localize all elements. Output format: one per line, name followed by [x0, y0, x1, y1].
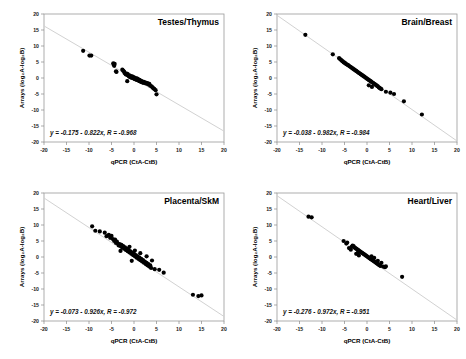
panel-title: Heart/Liver [408, 196, 453, 206]
x-tick-label: 5 [388, 326, 391, 332]
x-tick-label: 10 [409, 326, 415, 332]
y-tick-label: 15 [33, 206, 39, 212]
data-point [113, 62, 117, 66]
x-tick-label: -20 [40, 147, 48, 153]
x-tick-label: -5 [109, 326, 114, 332]
regression-equation: y = -0.073 - 0.926x, R = -0.972 [49, 308, 137, 316]
scatter-panel: -20-15-10-50510152020151050-5-10-15-20Pl… [0, 179, 233, 358]
data-point [157, 268, 161, 272]
data-point [149, 266, 153, 270]
figure-panel-grid: -20-15-10-50510152020151050-5-10-15-20Te… [0, 0, 466, 359]
data-point [331, 52, 335, 56]
x-axis-title: qPCR (CtA-CtB) [344, 337, 391, 344]
data-point [376, 259, 380, 263]
data-point [303, 33, 307, 37]
y-tick-label: -15 [32, 123, 40, 129]
x-tick-label: -10 [318, 326, 326, 332]
x-tick-label: 10 [176, 326, 182, 332]
x-tick-label: 20 [221, 326, 227, 332]
panel-plot: -20-15-10-50510152020151050-5-10-15-20Te… [0, 0, 233, 179]
x-tick-label: 20 [221, 147, 227, 153]
y-tick-label: -10 [265, 286, 273, 292]
regression-equation: y = -0.038 - 0.982x, R = -0.984 [282, 129, 370, 137]
y-tick-label: -15 [265, 123, 273, 129]
y-tick-label: 20 [266, 11, 272, 17]
data-point [154, 92, 158, 96]
x-tick-label: -15 [63, 326, 71, 332]
y-tick-label: 15 [266, 27, 272, 33]
y-axis-title: Arrays (log₂A-log₂B) [251, 227, 258, 288]
x-tick-label: 5 [155, 326, 158, 332]
data-point [118, 249, 122, 253]
data-point [310, 215, 314, 219]
y-tick-label: -15 [32, 302, 40, 308]
data-point [384, 264, 388, 268]
scatter-panel: -20-15-10-50510152020151050-5-10-15-20He… [233, 179, 466, 358]
x-tick-label: -20 [273, 147, 281, 153]
x-tick-label: 0 [133, 326, 136, 332]
y-tick-label: -20 [32, 318, 40, 324]
y-tick-label: 10 [266, 43, 272, 49]
data-point [133, 249, 137, 253]
y-tick-label: 10 [33, 222, 39, 228]
data-point [98, 229, 102, 233]
data-point [93, 229, 97, 233]
x-tick-label: 15 [199, 326, 205, 332]
y-tick-label: 20 [33, 11, 39, 17]
y-tick-label: 15 [266, 206, 272, 212]
y-tick-label: -20 [265, 139, 273, 145]
panel-title: Brain/Breast [401, 17, 452, 27]
x-axis-title: qPCR (CtA-CtB) [111, 158, 158, 165]
data-point [127, 245, 131, 249]
data-point [114, 70, 118, 74]
data-point [138, 251, 142, 255]
y-tick-label: 0 [36, 75, 39, 81]
x-tick-label: -5 [342, 147, 347, 153]
y-tick-label: 5 [269, 238, 272, 244]
data-point [379, 261, 383, 265]
y-tick-label: 10 [266, 222, 272, 228]
data-point [154, 88, 158, 92]
data-point [89, 54, 93, 58]
x-tick-label: -10 [85, 326, 93, 332]
y-tick-label: 15 [33, 27, 39, 33]
x-tick-label: 10 [409, 147, 415, 153]
y-axis-title: Arrays (log₂A-log₂B) [251, 48, 258, 109]
y-tick-label: 5 [36, 238, 39, 244]
data-point [370, 85, 374, 89]
y-axis-title: Arrays (log₂A-log₂B) [18, 227, 25, 288]
data-point [345, 241, 349, 245]
y-tick-label: 20 [33, 190, 39, 196]
panel-plot: -20-15-10-50510152020151050-5-10-15-20He… [233, 179, 466, 358]
data-point [125, 79, 129, 83]
y-tick-label: 5 [36, 59, 39, 65]
regression-equation: y = -0.175 - 0.822x, R = -0.968 [49, 129, 137, 137]
y-tick-label: 5 [269, 59, 272, 65]
regression-equation: y = -0.276 - 0.972x, R = -0.951 [282, 308, 370, 316]
x-tick-label: -15 [63, 147, 71, 153]
data-point [384, 90, 388, 94]
y-tick-label: -10 [32, 107, 40, 113]
x-tick-label: 15 [432, 326, 438, 332]
y-tick-label: 20 [266, 190, 272, 196]
data-point [420, 112, 424, 116]
data-point [145, 254, 149, 258]
y-tick-label: -20 [32, 139, 40, 145]
x-tick-label: -15 [296, 147, 304, 153]
y-tick-label: 0 [269, 75, 272, 81]
data-point [400, 275, 404, 279]
x-axis-title: qPCR (CtA-CtB) [111, 337, 158, 344]
data-point [388, 91, 392, 95]
data-point [199, 293, 203, 297]
x-tick-label: 20 [454, 326, 460, 332]
x-tick-label: -20 [40, 326, 48, 332]
y-tick-label: -5 [34, 91, 39, 97]
data-point [402, 99, 406, 103]
data-point [392, 92, 396, 96]
data-point [153, 267, 157, 271]
x-tick-label: -5 [342, 326, 347, 332]
y-tick-label: -10 [32, 286, 40, 292]
panel-title: Testes/Thymus [158, 17, 220, 27]
y-tick-label: -10 [265, 107, 273, 113]
x-tick-label: 20 [454, 147, 460, 153]
